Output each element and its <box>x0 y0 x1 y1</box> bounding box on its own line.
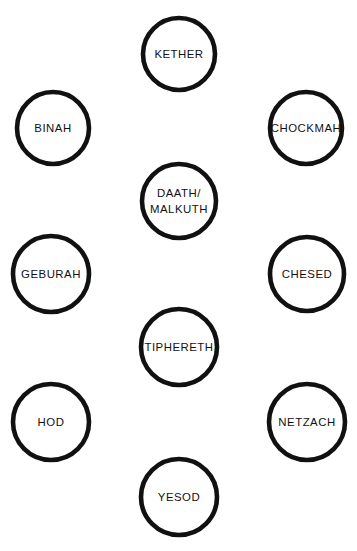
sephirah-label-chockmah: CHOCKMAH <box>271 122 341 134</box>
tree-of-life-canvas: KETHERBINAHCHOCKMAHDAATH/MALKUTHGEBURAHC… <box>0 0 357 551</box>
sephirah-label-hod: HOD <box>38 416 65 428</box>
sephirah-yesod[interactable]: YESOD <box>141 459 217 535</box>
sephirah-chesed[interactable]: CHESED <box>270 237 344 311</box>
edge-inner-fill <box>306 161 307 239</box>
sephirah-label-chesed: CHESED <box>282 268 332 280</box>
sephirah-chockmah[interactable]: CHOCKMAH <box>270 92 342 164</box>
sephirah-daath[interactable]: DAATH/MALKUTH <box>142 164 216 238</box>
sephirah-netzach[interactable]: NETZACH <box>269 384 345 460</box>
sephirah-circle-daath[interactable] <box>142 164 216 238</box>
sephirah-geburah[interactable]: GEBURAH <box>13 236 89 312</box>
sephirah-label-yesod: YESOD <box>158 491 200 503</box>
sephirah-label-kether: KETHER <box>154 48 203 60</box>
sephirah-label-daath-line1: DAATH/ <box>157 187 201 199</box>
sephirah-label-netzach: NETZACH <box>278 416 335 428</box>
sephirah-label-binah: BINAH <box>34 122 71 134</box>
edge-inner-fill <box>51 161 52 238</box>
sephirah-binah[interactable]: BINAH <box>17 92 89 164</box>
sephirah-tiphereth[interactable]: TIPHERETH <box>141 309 217 385</box>
edge-binah-geburah <box>51 161 52 238</box>
edge-chockmah-chesed <box>306 161 307 239</box>
tree-of-life-diagram: KETHERBINAHCHOCKMAHDAATH/MALKUTHGEBURAHC… <box>0 0 357 551</box>
sephirah-label-geburah: GEBURAH <box>21 268 81 280</box>
sephirah-label-daath-line2: MALKUTH <box>150 203 208 215</box>
sephirah-kether[interactable]: KETHER <box>143 18 215 90</box>
sephirah-label-tiphereth: TIPHERETH <box>144 341 213 353</box>
sephirah-hod[interactable]: HOD <box>13 384 89 460</box>
